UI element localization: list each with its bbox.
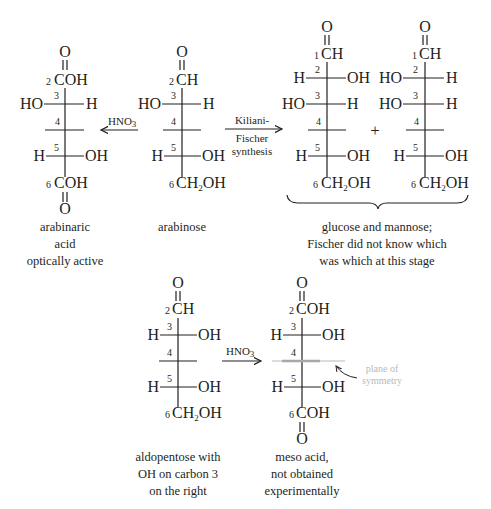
arabinose-caption: arabinose	[132, 219, 232, 236]
symmetry-label: plane of	[366, 363, 399, 374]
top-oxygen: O	[296, 274, 308, 291]
left-substituent: HO	[379, 69, 402, 86]
carbon-number: 1	[412, 50, 417, 61]
caption-line: optically active	[15, 253, 115, 270]
carbon-number: 2	[413, 64, 418, 75]
reagent-label: Fischer	[236, 132, 269, 144]
caption-line: acid	[15, 236, 115, 253]
left-substituent: H	[147, 378, 159, 395]
left-substituent: HO	[138, 95, 161, 112]
hno3-arrow-top: HNO3	[101, 115, 138, 130]
bottom-oxygen: O	[59, 200, 71, 217]
left-substituent: HO	[20, 95, 43, 112]
carboxyl-group: COH	[54, 71, 88, 88]
aldehyde-group: CH	[321, 45, 344, 62]
carbon-number: 2	[46, 76, 51, 87]
carbon-number: 5	[315, 142, 320, 153]
carboxyl-group: COH	[296, 300, 330, 317]
carbon-number: 5	[291, 373, 296, 384]
carbon-number: 4	[171, 116, 176, 127]
left-substituent: H	[271, 378, 283, 395]
carbon-number: 2	[169, 76, 174, 87]
glucose-structure: O 1 CH 2 H OH 3 HO H 4 5 H OH 6 CH2OH	[282, 18, 371, 193]
carbon-number: 4	[291, 347, 296, 358]
right-substituent: OH	[445, 147, 469, 164]
carbon-number: 5	[167, 373, 172, 384]
aldehyde-group: CH	[172, 300, 195, 317]
hno3-arrow-bottom: HNO3	[222, 345, 261, 361]
glucose-mannose-caption: glucose and mannose; Fischer did not kno…	[297, 219, 457, 270]
caption-line: glucose and mannose;	[297, 219, 457, 236]
left-substituent: HO	[282, 95, 305, 112]
carbon-number: 6	[165, 409, 170, 420]
carbon-number: 5	[413, 142, 418, 153]
left-substituent: H	[33, 147, 45, 164]
right-substituent: OH	[198, 326, 222, 343]
carbon-number: 4	[167, 347, 172, 358]
top-oxygen: O	[172, 274, 184, 291]
carbon-number: 1	[314, 50, 319, 61]
caption-line: not obtained	[252, 466, 352, 483]
kiliani-fischer-arrow: Kiliani- Fischer synthesis	[225, 114, 282, 157]
carboxyl-group: COH	[296, 404, 330, 421]
reagent-label: HNO3	[226, 345, 255, 359]
carboxyl-group: COH	[54, 174, 88, 191]
right-substituent: H	[86, 95, 98, 112]
caption-line: OH on carbon 3	[128, 466, 228, 483]
right-substituent: OH	[322, 326, 346, 343]
carbon-number: 4	[414, 116, 419, 127]
carbon-number: 2	[315, 64, 320, 75]
symmetry-label: symmetry	[362, 375, 402, 386]
caption-line: arabinaric	[15, 219, 115, 236]
mannose-structure: O 1 CH 2 HO H 3 HO H 4 5 H OH 6 CH2OH	[379, 18, 469, 193]
hydroxymethyl-group: CH2OH	[176, 174, 226, 193]
left-substituent: H	[151, 147, 163, 164]
top-oxygen: O	[321, 18, 333, 35]
carbon-number: 6	[313, 179, 318, 190]
carbon-number: 3	[54, 90, 59, 101]
left-substituent: HO	[379, 95, 402, 112]
caption-line: arabinose	[132, 219, 232, 236]
carbon-number: 6	[411, 179, 416, 190]
right-substituent: OH	[85, 147, 109, 164]
meso-acid-caption: meso acid, not obtained experimentally	[252, 449, 352, 500]
left-substituent: H	[293, 69, 305, 86]
reagent-label: HNO3	[108, 115, 137, 129]
carbon-number: 3	[167, 321, 172, 332]
carbon-number: 6	[46, 179, 51, 190]
right-substituent: H	[347, 95, 359, 112]
left-substituent: H	[295, 147, 307, 164]
bottom-oxygen: O	[296, 430, 308, 447]
right-substituent: H	[203, 95, 215, 112]
carbon-number: 5	[171, 142, 176, 153]
top-oxygen: O	[59, 43, 71, 60]
carbon-number: 3	[291, 321, 296, 332]
top-oxygen: O	[176, 43, 188, 60]
left-substituent: H	[270, 326, 282, 343]
right-substituent: OH	[202, 147, 226, 164]
right-substituent: OH	[198, 378, 222, 395]
arabinaric-acid-caption: arabinaric acid optically active	[15, 219, 115, 270]
carbon-number: 3	[171, 90, 176, 101]
right-substituent: OH	[322, 378, 346, 395]
curly-brace	[287, 195, 468, 209]
plus-sign: +	[370, 121, 380, 140]
meso-acid-structure: O 2 COH 3 H OH 4 5 H OH 6 COH O plane of…	[270, 274, 402, 447]
hydroxymethyl-group: CH2OH	[172, 404, 222, 423]
arabinose-structure: O 2 CH 3 HO H 4 5 H OH 6 CH2OH	[138, 43, 226, 193]
carbon-number: 6	[289, 409, 294, 420]
arabinaric-acid-structure: O 2 COH 3 HO H 4 5 H OH 6 COH O	[20, 43, 109, 217]
carbon-number: 2	[289, 305, 294, 316]
right-substituent: OH	[347, 147, 371, 164]
right-substituent: H	[446, 69, 458, 86]
caption-line: experimentally	[252, 483, 352, 500]
caption-line: aldopentose with	[128, 449, 228, 466]
caption-line: Fischer did not know which	[297, 236, 457, 253]
carbon-number: 4	[316, 116, 321, 127]
caption-line: meso acid,	[252, 449, 352, 466]
carbon-number: 3	[315, 90, 320, 101]
hydroxymethyl-group: CH2OH	[321, 174, 371, 193]
hydroxymethyl-group: CH2OH	[419, 174, 469, 193]
reagent-label: synthesis	[232, 145, 272, 157]
right-substituent: OH	[347, 69, 371, 86]
